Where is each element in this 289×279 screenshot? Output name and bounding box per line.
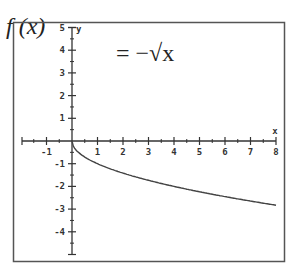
y-tick-label: -4	[54, 227, 65, 237]
x-tick-label: -1	[41, 147, 52, 157]
x-tick-label: 1	[95, 147, 100, 157]
y-tick-label: 5	[60, 23, 65, 33]
x-tick-label: 5	[197, 147, 202, 157]
x-tick-label: 4	[171, 147, 177, 157]
x-tick-label: 3	[146, 147, 151, 157]
y-tick-label: 1	[60, 113, 65, 123]
x-tick-label: 7	[248, 147, 253, 157]
x-tick-label: 2	[120, 147, 125, 157]
x-tick-label: 6	[222, 147, 227, 157]
y-tick-label: -2	[54, 181, 65, 191]
y-tick-label: 4	[60, 45, 66, 55]
x-axis-label: x	[272, 126, 278, 136]
function-plot: -11234567854321-1-2-3-4xy	[0, 0, 289, 279]
y-tick-label: -1	[54, 159, 65, 169]
y-tick-label: 2	[60, 91, 65, 101]
y-tick-label: -3	[54, 204, 65, 214]
y-axis-label: y	[76, 24, 82, 34]
y-tick-label: 3	[60, 68, 65, 78]
x-tick-label: 8	[273, 147, 278, 157]
